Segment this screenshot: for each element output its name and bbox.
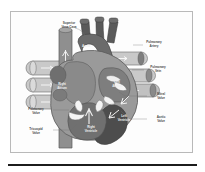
svg-text:Vena Cava: Vena Cava: [61, 25, 76, 29]
svg-text:Vein: Vein: [155, 69, 161, 73]
horizontal-rule: [8, 164, 197, 166]
right-atrium-chamber: [61, 62, 95, 105]
svg-text:Artery: Artery: [150, 44, 159, 48]
label-aorta: Aorta: [82, 44, 90, 48]
label-right-atrium: Right Atrium: [57, 82, 67, 90]
svg-text:Valve: Valve: [32, 131, 40, 135]
label-mitral-valve: Mitral Valve: [157, 92, 165, 100]
svg-text:Valve: Valve: [157, 96, 165, 100]
svg-text:Aorta: Aorta: [82, 44, 90, 48]
label-aortic-valve: Aortic Valve: [157, 115, 166, 123]
label-superior-vena-cava: Superior Vena Cava: [61, 21, 76, 29]
svg-text:Atrium: Atrium: [57, 86, 67, 90]
svg-text:Ventricle: Ventricle: [118, 118, 131, 122]
svg-text:Valve: Valve: [32, 111, 40, 115]
svg-text:Atrium: Atrium: [112, 84, 122, 88]
heart-diagram-figure: Superior Vena Cava Aorta Pulmonary Arter…: [10, 11, 193, 153]
svg-text:Valve: Valve: [157, 119, 165, 123]
heart-anatomy-illustration: Superior Vena Cava Aorta Pulmonary Arter…: [11, 12, 192, 152]
svg-text:Ventricle: Ventricle: [85, 129, 98, 133]
